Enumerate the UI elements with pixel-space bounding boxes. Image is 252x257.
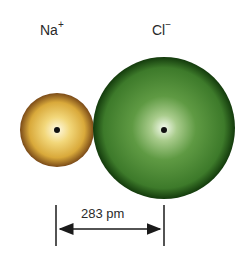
cl-nucleus-dot [161,127,167,133]
na-label: Na+ [40,20,64,38]
cl-ion [93,57,235,199]
na-nucleus-dot [54,127,60,133]
cl-label: Cl− [152,20,171,38]
ionic-radius-diagram [0,0,252,257]
na-ion [20,93,94,167]
distance-label: 283 pm [81,206,124,221]
